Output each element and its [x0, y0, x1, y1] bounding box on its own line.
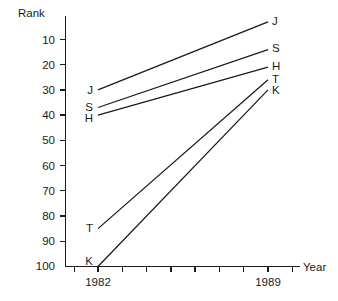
series-line-H — [98, 67, 268, 115]
left-label-J: J — [87, 84, 93, 96]
y-axis-ticks — [60, 40, 66, 242]
x-tick-label-1989: 1989 — [255, 276, 281, 288]
series-line-T — [98, 80, 268, 229]
left-label-T: T — [86, 222, 93, 234]
y-tick-label-60: 60 — [42, 160, 55, 172]
y-tick-label-100: 100 — [36, 260, 55, 272]
y-tick-label-40: 40 — [42, 109, 55, 121]
y-tick-label-90: 90 — [42, 235, 55, 247]
series-line-K — [98, 90, 268, 267]
right-label-J: J — [272, 15, 278, 27]
series-line-S — [98, 50, 268, 108]
y-tick-label-10: 10 — [42, 34, 55, 46]
series-line-J — [98, 22, 268, 90]
left-label-K: K — [85, 255, 93, 267]
x-axis-title: Year — [303, 261, 326, 273]
right-label-H: H — [272, 60, 280, 72]
left-label-H: H — [85, 112, 93, 124]
y-tick-label-80: 80 — [42, 210, 55, 222]
right-label-K: K — [272, 84, 280, 96]
y-tick-label-50: 50 — [42, 134, 55, 146]
x-axis-ticks — [74, 267, 292, 273]
chart-page: 10 20 30 40 50 60 70 80 90 100 1982 1989… — [0, 0, 338, 301]
y-tick-label-20: 20 — [42, 59, 55, 71]
right-label-S: S — [272, 42, 280, 54]
y-tick-label-70: 70 — [42, 185, 55, 197]
y-axis-title: Rank — [18, 7, 45, 19]
rank-slope-chart: 10 20 30 40 50 60 70 80 90 100 1982 1989… — [0, 0, 338, 301]
x-tick-label-1982: 1982 — [85, 276, 111, 288]
y-tick-label-30: 30 — [42, 84, 55, 96]
